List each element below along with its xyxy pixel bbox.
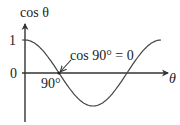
zero-crossing-point bbox=[57, 71, 60, 74]
x-axis-label: θ bbox=[169, 71, 176, 86]
y-tick-label-1: 1 bbox=[9, 33, 16, 48]
cosine-graph: cos θ θ 1 0 90° cos 90° = 0 bbox=[0, 0, 180, 125]
y-axis-label: cos θ bbox=[20, 5, 49, 20]
x-tick-label-90: 90° bbox=[41, 76, 61, 91]
annotation-label: cos 90° = 0 bbox=[70, 48, 134, 63]
y-tick-label-0: 0 bbox=[10, 66, 17, 81]
